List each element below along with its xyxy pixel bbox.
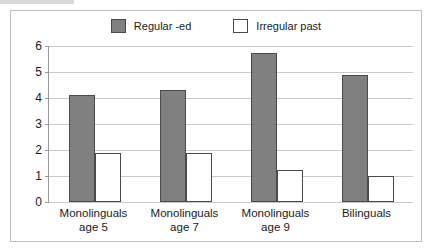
gridline-0	[49, 202, 413, 203]
x-axis-label-line: Monolinguals	[230, 206, 321, 220]
y-tick-label-4: 4	[35, 92, 42, 104]
y-tick-label-0: 0	[35, 196, 42, 208]
plot-area: 0123456	[48, 46, 413, 203]
x-axis-label: Monolingualsage 7	[139, 206, 230, 235]
bar-irregular-past[interactable]	[95, 153, 121, 202]
y-tick-label-3: 3	[35, 118, 42, 130]
y-tick-mark-0	[45, 202, 49, 203]
bar-pair	[342, 46, 394, 202]
bar-irregular-past[interactable]	[368, 176, 394, 202]
x-axis-label-line: age 5	[48, 220, 139, 234]
bar-group	[140, 46, 231, 202]
bar-regular-ed[interactable]	[69, 95, 95, 202]
y-tick-label-6: 6	[35, 40, 42, 52]
bar-groups	[49, 46, 413, 202]
bar-regular-ed[interactable]	[342, 75, 368, 202]
y-tick-label-1: 1	[35, 170, 42, 182]
x-axis-label: Monolingualsage 5	[48, 206, 139, 235]
bar-pair	[69, 46, 121, 202]
bar-irregular-past[interactable]	[277, 170, 303, 203]
y-tick-label-2: 2	[35, 144, 42, 156]
x-axis-label-line: age 7	[139, 220, 230, 234]
plot-wrapper: 0123456 Monolingualsage 5Monolingualsage…	[11, 11, 421, 241]
x-axis-label-line: Monolinguals	[48, 206, 139, 220]
x-axis-label-line: age 9	[230, 220, 321, 234]
scan-artifact-strip	[0, 0, 74, 4]
x-axis-label: Bilinguals	[321, 206, 412, 235]
x-axis-label-line: Bilinguals	[321, 206, 412, 220]
bar-pair	[251, 46, 303, 202]
bar-pair	[160, 46, 212, 202]
x-axis-label: Monolingualsage 9	[230, 206, 321, 235]
bar-group	[322, 46, 413, 202]
bar-group	[49, 46, 140, 202]
bar-regular-ed[interactable]	[160, 90, 186, 202]
bar-irregular-past[interactable]	[186, 153, 212, 202]
bar-regular-ed[interactable]	[251, 53, 277, 203]
chart-frame: Regular -ed Irregular past 0123456 Monol…	[10, 10, 422, 242]
x-axis-label-line: Monolinguals	[139, 206, 230, 220]
y-tick-label-5: 5	[35, 66, 42, 78]
x-axis-labels: Monolingualsage 5Monolingualsage 7Monoli…	[48, 206, 412, 235]
bar-group	[231, 46, 322, 202]
